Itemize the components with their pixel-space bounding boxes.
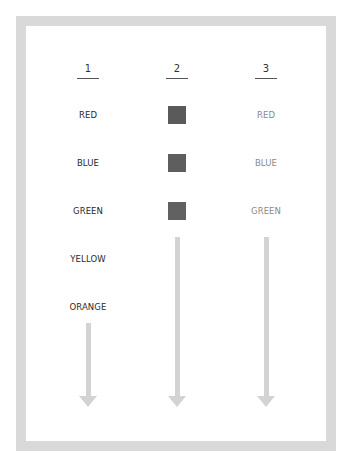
color-swatch-1 bbox=[168, 106, 186, 124]
column-heading-3: 3 bbox=[255, 63, 277, 79]
col1-label-blue: BLUE bbox=[48, 158, 128, 168]
col1-label-orange: ORANGE bbox=[48, 302, 128, 312]
col3-label-blue: BLUE bbox=[226, 158, 306, 168]
column-heading-2: 2 bbox=[166, 63, 188, 79]
col3-label-red: RED bbox=[226, 110, 306, 120]
heading-underline bbox=[166, 78, 188, 79]
column-number: 3 bbox=[255, 63, 277, 75]
col1-label-yellow: YELLOW bbox=[48, 254, 128, 264]
down-arrow-icon-col3 bbox=[257, 237, 275, 407]
heading-underline bbox=[77, 78, 99, 79]
column-number: 1 bbox=[77, 63, 99, 75]
col1-label-green: GREEN bbox=[48, 206, 128, 216]
col3-label-green: GREEN bbox=[226, 206, 306, 216]
column-number: 2 bbox=[166, 63, 188, 75]
color-swatch-3 bbox=[168, 202, 186, 220]
heading-underline bbox=[255, 78, 277, 79]
down-arrow-icon-col1 bbox=[79, 323, 97, 407]
down-arrow-icon-col2 bbox=[168, 237, 186, 407]
color-swatch-2 bbox=[168, 154, 186, 172]
col1-label-red: RED bbox=[48, 110, 128, 120]
column-heading-1: 1 bbox=[77, 63, 99, 79]
